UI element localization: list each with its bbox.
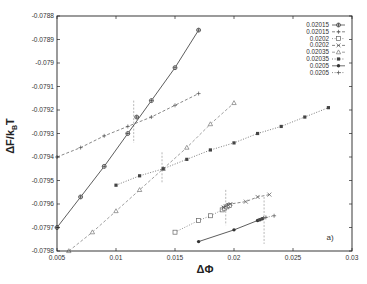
data-point-circle-plus: [126, 132, 130, 136]
data-point-filled-square: [138, 174, 141, 177]
data-point-circle-plus: [149, 99, 153, 103]
data-point-triangle: [185, 145, 189, 149]
y-tick-label: -0.079: [35, 59, 54, 66]
y-tick-label: -0.0795: [32, 177, 55, 184]
data-point-triangle: [114, 209, 118, 213]
data-point-filled-square: [185, 158, 188, 161]
data-point-filled-square: [256, 132, 259, 135]
data-point-filled-square: [303, 115, 306, 118]
x-tick-label: 0.03: [346, 254, 359, 261]
data-point-circle-plus: [135, 115, 139, 119]
data-point-filled-square: [232, 141, 235, 144]
y-tick-label: -0.0794: [32, 153, 55, 160]
data-point-plus: [79, 146, 83, 150]
panel-annotation: a): [326, 233, 333, 242]
data-point-filled-circle: [232, 228, 235, 231]
data-point-plus: [337, 71, 341, 75]
x-tick-label: 0.02: [228, 254, 241, 261]
series-line: [199, 219, 263, 242]
series-0_02015-dashed: [55, 92, 201, 159]
data-point-plus: [337, 30, 341, 34]
data-point-plus: [126, 124, 130, 128]
data-point-plus: [197, 92, 201, 96]
x-axis-title: ΔΦ: [197, 263, 214, 275]
data-point-circle-plus: [197, 28, 201, 32]
data-point-plus: [102, 134, 106, 138]
data-point-circle-plus: [173, 66, 177, 70]
y-tick-label: -0.0793: [32, 130, 55, 137]
chart-figure: ΔΦ a) 0.0050.010.0150.020.0250.03-0.0788…: [0, 0, 367, 284]
data-point-triangle: [232, 101, 236, 105]
data-point-plus: [149, 115, 153, 119]
data-point-filled-square: [337, 57, 340, 60]
data-point-circle-plus: [337, 23, 341, 27]
x-tick-label: 0.005: [49, 254, 66, 261]
series-0_02035-dotted: [114, 106, 330, 187]
y-tick-label: -0.0791: [32, 83, 55, 90]
x-tick-label: 0.015: [167, 254, 184, 261]
legend-item: 0.0205: [310, 69, 345, 76]
data-point-filled-square: [209, 148, 212, 151]
y-tick-label: -0.0789: [32, 36, 55, 43]
legend-label: 0.0205: [310, 69, 330, 76]
data-point-plus: [264, 215, 268, 219]
x-tick-label: 0.01: [110, 254, 123, 261]
series-line: [116, 108, 328, 186]
y-axis: -0.0788-0.0789-0.079-0.0791-0.0792-0.079…: [32, 12, 352, 254]
series-0_0205-solid: [197, 217, 264, 243]
series-0_02035-dashed: [67, 101, 237, 253]
data-point-open-square: [337, 37, 341, 41]
data-point-plus: [272, 214, 276, 218]
free-energy-plot: ΔΦ a) 0.0050.010.0150.020.0250.03-0.0788…: [0, 0, 367, 284]
series-line: [57, 30, 199, 227]
y-tick-label: -0.0792: [32, 106, 55, 113]
data-point-filled-square: [327, 106, 330, 109]
y-tick-label: -0.0788: [32, 12, 55, 19]
data-point-filled-circle: [337, 64, 340, 67]
data-point-open-square: [197, 218, 201, 222]
data-point-filled-square: [114, 184, 117, 187]
y-axis-title: ΔF/kBT: [4, 118, 18, 154]
data-point-filled-square: [162, 167, 165, 170]
data-point-filled-circle: [197, 240, 200, 243]
x-tick-label: 0.025: [285, 254, 302, 261]
data-point-plus: [173, 103, 177, 107]
y-tick-label: -0.0796: [32, 200, 55, 207]
series-0_02015-solid: [55, 28, 201, 229]
data-point-triangle: [336, 50, 340, 54]
data-point-open-square: [208, 214, 212, 218]
data-point-filled-square: [280, 125, 283, 128]
y-tick-label: -0.0797: [32, 224, 55, 231]
data-point-circle-plus: [79, 195, 83, 199]
data-point-circle-plus: [102, 164, 106, 168]
y-tick-label: -0.0798: [32, 247, 55, 254]
data-point-open-square: [173, 230, 177, 234]
legend: 0.020150.020150.02020.02020.020350.02035…: [306, 21, 345, 76]
